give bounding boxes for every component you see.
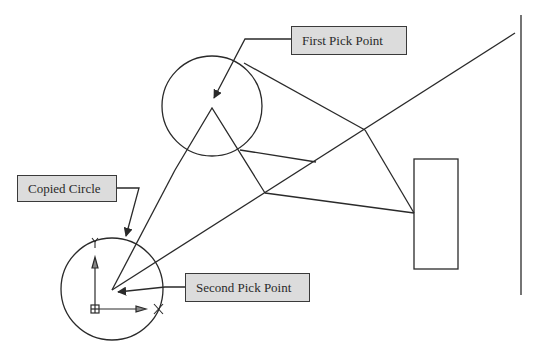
- tangent-line-lower: [240, 150, 316, 162]
- rectangle: [414, 159, 458, 269]
- grip-marker-icon: [154, 304, 163, 314]
- line-vertex-to-rect: [365, 130, 414, 213]
- grip-marker-icon: [92, 238, 98, 248]
- original-circle: [162, 56, 262, 156]
- long-diagonal: [112, 33, 515, 290]
- line-bottom-to-rect: [265, 193, 414, 213]
- first-pick-leader: [214, 39, 291, 98]
- copied-circle-label: Copied Circle: [17, 175, 117, 202]
- ucs-icon: [91, 257, 146, 313]
- tangent-line-upper: [244, 63, 365, 130]
- second-pick-point-label: Second Pick Point: [185, 273, 310, 302]
- second-pick-leader: [118, 287, 185, 292]
- first-pick-point-label: First Pick Point: [291, 26, 407, 55]
- copied-circle-leader: [117, 188, 139, 236]
